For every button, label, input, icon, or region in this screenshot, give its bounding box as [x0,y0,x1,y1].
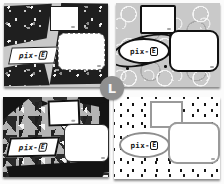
photo-frame-small [140,5,176,34]
photo-frame-large [168,122,220,164]
mockup-card-dark-terrazzo[interactable]: pix-E [4,3,108,87]
photo-frame-large [64,124,109,162]
mockup-card-square-dots[interactable]: pix-E [114,97,220,179]
photo-frame-small [48,99,81,126]
logo-text: pix- [130,47,149,56]
corner-mark [97,65,101,67]
badge-letter: L [108,81,116,96]
pix-e-logo-tag: pix-E [8,47,58,65]
logo-boxed-letter: E [38,142,48,151]
pix-e-logo-ellipse: pix-E [118,38,170,64]
photo-frame-large [58,33,105,70]
corner-mark [71,120,75,122]
pix-e-logo-tag: pix-E [6,137,60,158]
mockup-card-doodle-circles[interactable]: pix-E [116,3,220,87]
logo-boxed-letter: E [38,51,48,60]
mockup-card-triangle-confetti[interactable]: pix-E [3,97,109,177]
photo-frame-small [50,6,79,31]
center-letter-badge[interactable]: L [100,76,124,100]
confetti-dot [164,65,167,68]
logo-text: pix- [18,51,39,60]
pix-e-logo-ellipse: pix-E [119,132,170,158]
logo-boxed-letter: E [150,47,158,56]
corner-mark [101,157,105,159]
corner-mark [211,158,215,160]
logo-boxed-letter: E [150,141,158,150]
logo-text: pix- [18,142,39,151]
corner-mark [167,28,171,30]
logo-text: pix- [131,141,150,150]
photo-frame-large [169,30,219,72]
confetti-dot [126,67,129,70]
corner-mark [71,26,75,28]
corner-mark [210,66,214,68]
